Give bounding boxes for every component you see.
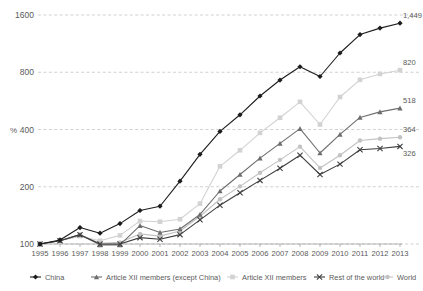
legend-label-5[interactable]: World: [397, 273, 416, 282]
x-axis-tick-label: 1999: [112, 249, 129, 258]
data-point-marker: [97, 231, 102, 236]
data-point-marker: [337, 162, 342, 167]
x-axis-tick-label: 2003: [192, 249, 209, 258]
data-point-marker: [385, 275, 389, 279]
y-axis-tick-label: 800: [20, 67, 34, 77]
data-point-marker: [297, 126, 302, 131]
chart-container: 1002004008001600%19951996199719981999200…: [0, 0, 423, 291]
data-point-marker: [198, 201, 203, 206]
data-point-marker: [238, 148, 243, 153]
series-line-rest-of-the-world: [40, 146, 400, 244]
data-point-marker: [218, 197, 222, 201]
data-point-marker: [398, 135, 402, 139]
data-point-marker: [118, 233, 123, 238]
y-axis-tick-label: 200: [20, 182, 34, 192]
data-point-marker: [178, 217, 183, 222]
x-axis-tick-label: 2013: [392, 249, 409, 258]
data-point-marker: [298, 100, 303, 105]
x-axis-tick-label: 1996: [52, 249, 69, 258]
y-axis-tick-label: 1600: [15, 10, 34, 20]
data-point-marker: [358, 78, 363, 83]
data-point-marker: [278, 158, 282, 162]
data-point-marker: [238, 184, 242, 188]
x-axis-tick-label: 2008: [292, 249, 309, 258]
data-point-marker: [378, 136, 382, 140]
data-point-marker: [358, 138, 362, 142]
data-point-marker: [338, 95, 343, 100]
data-point-marker: [397, 21, 402, 26]
data-point-marker: [338, 153, 342, 157]
legend-label-1[interactable]: China: [45, 273, 65, 282]
data-point-marker: [137, 223, 142, 228]
data-point-marker: [277, 166, 282, 171]
x-axis-tick-label: 2010: [332, 249, 349, 258]
data-point-marker: [158, 219, 163, 224]
legend-label-4[interactable]: Rest of the world: [329, 273, 384, 282]
x-axis-tick-label: 2002: [172, 249, 189, 258]
data-point-marker: [257, 178, 262, 183]
x-axis-tick-label: 1997: [72, 249, 89, 258]
legend-label-2[interactable]: Article XII members (except China): [106, 273, 221, 282]
legend-label-3[interactable]: Article XII members: [242, 273, 307, 282]
data-point-marker: [218, 164, 223, 169]
x-axis-tick-label: 2012: [372, 249, 389, 258]
x-axis-tick-label: 2006: [252, 249, 269, 258]
series-end-label: 518: [403, 96, 416, 105]
data-point-marker: [398, 68, 403, 73]
y-axis-unit-label: %: [10, 126, 17, 135]
x-axis-tick-label: 2005: [232, 249, 249, 258]
data-point-marker: [318, 122, 323, 127]
data-point-marker: [377, 26, 382, 31]
data-point-marker: [138, 219, 143, 224]
x-axis-tick-label: 2004: [212, 249, 229, 258]
data-point-marker: [258, 171, 262, 175]
series-end-label: 820: [403, 58, 416, 67]
data-point-marker: [317, 172, 322, 177]
data-point-marker: [217, 203, 222, 208]
series-end-label: 364: [403, 125, 416, 134]
data-point-marker: [33, 274, 38, 279]
data-point-marker: [297, 153, 302, 158]
series-line-article-xii-members: [40, 70, 400, 244]
data-point-marker: [237, 190, 242, 195]
data-point-marker: [77, 225, 82, 230]
data-point-marker: [278, 115, 283, 120]
y-axis-tick-label: 400: [20, 125, 34, 135]
series-end-label: 1,449: [403, 11, 422, 20]
series-line-article-xii-members-except-china: [40, 108, 400, 245]
data-point-marker: [378, 72, 383, 77]
data-point-marker: [298, 144, 302, 148]
data-point-marker: [258, 131, 263, 136]
x-axis-tick-label: 2011: [352, 249, 368, 258]
x-axis-tick-label: 2001: [152, 249, 169, 258]
x-axis-tick-label: 2000: [132, 249, 149, 258]
x-axis-tick-label: 1998: [92, 249, 109, 258]
line-chart: 1002004008001600%19951996199719981999200…: [0, 0, 423, 291]
y-axis-tick-label: 100: [20, 239, 34, 249]
x-axis-tick-label: 2009: [312, 249, 329, 258]
data-point-marker: [318, 166, 322, 170]
data-point-marker: [230, 275, 235, 280]
x-axis-tick-label: 1995: [32, 249, 49, 258]
series-end-label: 326: [403, 149, 416, 158]
x-axis-tick-label: 2007: [272, 249, 289, 258]
